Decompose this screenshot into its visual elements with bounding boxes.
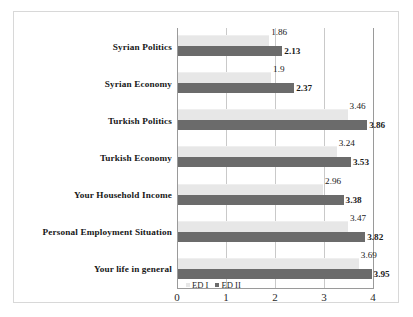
category-row: Personal Employment Situation3.473.82 <box>177 214 373 251</box>
bar-ed-i: 3.46 <box>178 109 348 120</box>
bar-ed-ii: 3.53 <box>178 157 351 167</box>
bar-ed-ii: 3.86 <box>178 120 367 130</box>
bar-value-label: 3.69 <box>361 250 377 260</box>
category-row: Syrian Politics1.862.13 <box>177 28 373 65</box>
plot-area: Syrian Politics1.862.13Syrian Economy1.9… <box>177 28 373 288</box>
legend-label: ED I <box>192 280 208 290</box>
x-tick-label: 1 <box>223 291 229 303</box>
category-row: Your Household Income2.963.38 <box>177 177 373 214</box>
category-label: Personal Employment Situation <box>43 227 172 237</box>
bar-ed-ii: 2.13 <box>178 46 282 56</box>
category-label: Your Household Income <box>74 190 172 200</box>
bar-value-label: 3.86 <box>369 120 385 130</box>
x-tick-label: 2 <box>272 291 278 303</box>
category-label: Syrian Economy <box>105 79 172 89</box>
bar-value-label: 3.95 <box>374 269 390 279</box>
bar-ed-i: 2.96 <box>178 184 323 195</box>
category-label: Turkish Politics <box>108 116 172 126</box>
bar-value-label: 3.46 <box>350 101 366 111</box>
legend-entry[interactable]: ED I <box>186 280 208 290</box>
bar-value-label: 1.86 <box>271 27 287 37</box>
bar-value-label: 3.38 <box>346 195 362 205</box>
bar-value-label: 1.9 <box>273 64 284 74</box>
bar-value-label: 3.47 <box>350 213 366 223</box>
category-label: Syrian Politics <box>113 42 172 52</box>
bar-ed-ii: 3.95 <box>178 269 372 279</box>
chart-legend: ED IED II <box>186 280 241 290</box>
category-label: Your life in general <box>94 264 172 274</box>
bar-value-label: 2.96 <box>325 176 341 186</box>
bar-ed-ii: 3.82 <box>178 232 365 242</box>
chart-frame: Syrian Politics1.862.13Syrian Economy1.9… <box>13 11 399 303</box>
bar-ed-ii: 2.37 <box>178 83 294 93</box>
bar-ed-i: 1.9 <box>178 72 271 83</box>
bar-value-label: 2.13 <box>284 46 300 56</box>
category-label: Turkish Economy <box>100 153 172 163</box>
legend-swatch-icon <box>186 283 190 287</box>
x-tick-label: 4 <box>370 291 376 303</box>
legend-label: ED II <box>221 280 240 290</box>
bar-ed-i: 1.86 <box>178 35 269 46</box>
bar-value-label: 3.24 <box>339 138 355 148</box>
legend-swatch-icon <box>215 283 219 287</box>
bar-value-label: 2.37 <box>296 83 312 93</box>
category-row: Syrian Economy1.92.37 <box>177 65 373 102</box>
x-tick-label: 3 <box>321 291 327 303</box>
bar-value-label: 3.82 <box>367 232 383 242</box>
x-tick-label: 0 <box>174 291 180 303</box>
legend-entry[interactable]: ED II <box>215 280 240 290</box>
category-row: Turkish Economy3.243.53 <box>177 139 373 176</box>
bar-value-label: 3.53 <box>353 157 369 167</box>
bar-ed-i: 3.24 <box>178 146 337 157</box>
bar-ed-ii: 3.38 <box>178 195 344 205</box>
bar-ed-i: 3.69 <box>178 258 359 269</box>
category-row: Turkish Politics3.463.86 <box>177 102 373 139</box>
bar-ed-i: 3.47 <box>178 221 348 232</box>
x-axis-tick-labels: 01234 <box>177 291 373 307</box>
